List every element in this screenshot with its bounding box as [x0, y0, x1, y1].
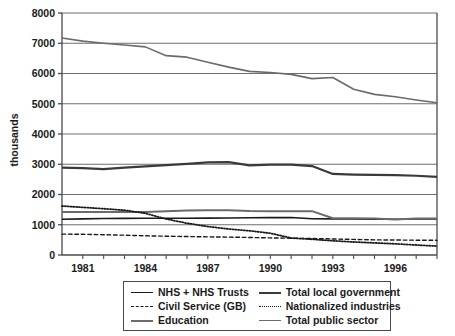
legend-item-label: Total local government: [286, 286, 400, 299]
y-tick-label: 7000: [32, 37, 56, 49]
dashed-line-black-swatch: [131, 306, 153, 307]
y-tick-label: 1000: [32, 219, 56, 231]
series-line-total-public-sector: [62, 38, 437, 103]
y-tick-label: 0: [49, 249, 55, 261]
y-tick-label: 3000: [32, 158, 56, 170]
legend-item-label: Civil Service (GB): [158, 300, 246, 313]
y-tick-label: 8000: [32, 7, 56, 19]
solid-line-black-swatch: [131, 292, 153, 293]
dotted-line-gray-swatch: [259, 306, 281, 307]
legend-item[interactable]: Civil Service (GB): [131, 300, 249, 313]
legend-item[interactable]: Education: [131, 314, 249, 327]
solid-line-gray-swatch: [131, 320, 153, 322]
x-tick-label: 1981: [71, 262, 95, 274]
legend-item[interactable]: Total public sector: [259, 314, 401, 327]
legend-item[interactable]: NHS + NHS Trusts: [131, 286, 249, 299]
x-tick-label: 1984: [134, 262, 158, 274]
y-axis-tick-labels: 010002000300040005000600070008000: [32, 7, 56, 261]
legend-item[interactable]: Nationalized industries: [259, 300, 401, 313]
y-tick-label: 5000: [32, 98, 56, 110]
x-axis-tick-labels: 198119841987199019931996: [71, 262, 407, 274]
series-line-civil-service-gb: [62, 234, 437, 240]
data-series-group: [62, 38, 437, 246]
legend-item[interactable]: Total local government: [259, 286, 401, 299]
y-tick-label: 4000: [32, 128, 56, 140]
solid-line-darkgray-swatch: [259, 292, 281, 294]
y-tick-label: 2000: [32, 188, 56, 200]
solid-line-lightgray-swatch: [259, 320, 281, 321]
x-tick-label: 1990: [259, 262, 283, 274]
chart-figure: 010002000300040005000600070008000 198119…: [0, 0, 455, 336]
x-tick-label: 1993: [321, 262, 345, 274]
legend-item-label: NHS + NHS Trusts: [158, 286, 249, 299]
y-axis-title: thousands: [8, 113, 20, 166]
chart-legend: NHS + NHS TrustsTotal local governmentCi…: [123, 281, 391, 331]
legend-item-label: Total public sector: [286, 314, 379, 327]
legend-item-label: Nationalized industries: [286, 300, 401, 313]
y-tick-label: 6000: [32, 67, 56, 79]
x-tick-label: 1996: [384, 262, 408, 274]
legend-item-label: Education: [158, 314, 209, 327]
x-tick-label: 1987: [196, 262, 220, 274]
